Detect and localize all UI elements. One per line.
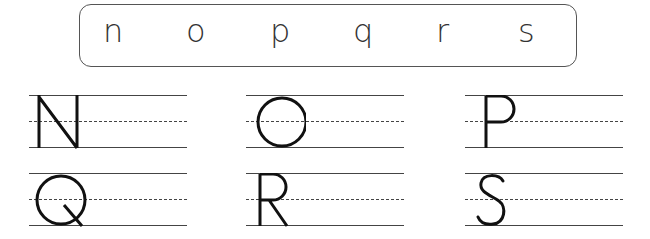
bank-letter-p: p: [270, 11, 290, 51]
lowercase-letter-bank: n o p q r s: [79, 4, 577, 67]
practice-lines-R: R: [246, 173, 404, 227]
bank-letter-n: n: [103, 11, 123, 51]
practice-lines-N: N: [29, 95, 187, 149]
letter-R-glyph: [246, 173, 306, 229]
letter-Q-glyph: [29, 173, 99, 229]
practice-lines-O: O: [246, 95, 404, 149]
bank-letter-q: q: [353, 11, 373, 51]
letter-O-glyph: [246, 95, 306, 151]
letter-S-glyph: [465, 173, 525, 229]
bank-letter-o: o: [186, 11, 206, 51]
practice-lines-P: P: [465, 95, 623, 149]
practice-lines-Q: Q: [29, 173, 187, 227]
bank-letter-s: s: [518, 11, 535, 51]
letter-P-glyph: [465, 95, 525, 151]
bank-letter-r: r: [436, 11, 449, 51]
letter-N-glyph: [29, 95, 89, 151]
practice-lines-S: S: [465, 173, 623, 227]
